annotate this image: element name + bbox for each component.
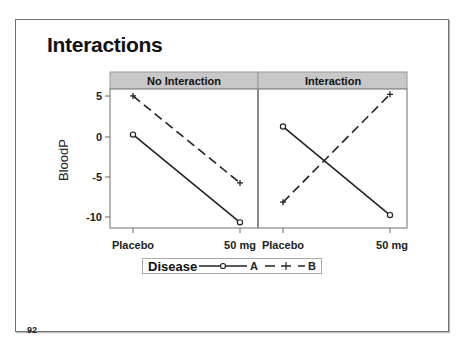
legend: Disease	[142, 258, 322, 274]
y-tick-neg5: -5	[92, 171, 102, 183]
panel-interaction	[258, 89, 407, 228]
circle-marker	[387, 212, 392, 217]
legend-title: Disease	[148, 259, 197, 274]
y-tick-neg10: -10	[86, 211, 102, 223]
y-axis-label: BloodP	[56, 139, 71, 181]
x-axis: Placebo 50 mg Placebo 50 mg	[112, 228, 408, 251]
page-number: 92	[27, 325, 37, 335]
circle-marker	[280, 124, 285, 129]
panel-no-interaction	[110, 89, 258, 228]
interaction-chart: No Interaction Interaction 5 0 -5 -10 Bl…	[0, 0, 461, 350]
x-tick-50mg-left: 50 mg	[224, 239, 256, 251]
circle-marker	[130, 132, 135, 137]
panel-title-interaction: Interaction	[305, 75, 362, 87]
x-tick-50mg-right: 50 mg	[376, 239, 408, 251]
x-tick-placebo-left: Placebo	[112, 239, 154, 251]
y-tick-5: 5	[96, 90, 102, 102]
x-tick-placebo-right: Placebo	[262, 239, 304, 251]
y-tick-0: 0	[96, 131, 102, 143]
circle-marker	[237, 220, 242, 225]
y-axis: 5 0 -5 -10	[86, 90, 110, 223]
panel-title-no-interaction: No Interaction	[147, 75, 221, 87]
